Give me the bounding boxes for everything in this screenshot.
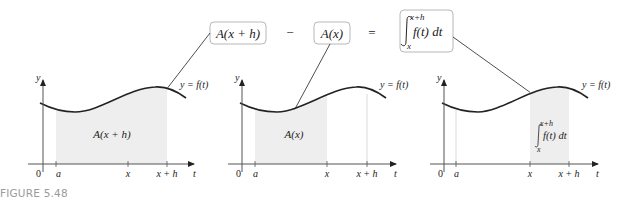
y-axis-label: y [436,72,442,83]
y-axis-label: y [234,72,240,83]
minus-sign: − [286,25,293,40]
integral-upper-limit: x+h [409,12,425,22]
tick-label-x-plus-h: x + h [355,168,377,179]
origin-label: 0 [236,168,241,179]
equals-sign: = [368,25,375,40]
t-axis-label: t [193,168,196,179]
curve-label: y = f(t) [179,79,209,91]
integral-box: x+h x f(t) dt [400,10,453,52]
tick-label-x: x [125,168,131,179]
region-label: A(x) [284,128,304,141]
tick-label-a: a [56,168,61,179]
panel-1: y t 0 a x x + h y = f(t) A(x + h) [28,72,209,179]
connector-line-3 [453,37,538,98]
tick-label-x: x [324,168,330,179]
origin-label: 0 [36,168,41,179]
shaded-region [56,87,167,164]
y-axis-label: y [35,72,41,83]
region-integral-upper: x+h [539,119,553,128]
origin-label: 0 [438,168,443,179]
integral-integrand: f(t) dt [413,24,443,39]
figure-canvas: A(x + h) − A(x) = x+h x f(t) dt y t 0 a [0,0,640,203]
curve-label: y = f(t) [581,79,611,91]
tick-label-x-plus-h: x + h [155,168,177,179]
term-a-x-plus-h-box: A(x + h) [210,22,266,44]
panel-2: y t 0 a x x + h y = f(t) A(x) [228,72,409,179]
tick-label-a: a [253,168,258,179]
figure-caption: FIGURE 5.48 [0,187,68,199]
region-label: A(x + h) [92,128,131,141]
tick-label-x: x [527,168,533,179]
tick-label-x-plus-h: x + h [557,168,579,179]
region-integral-integrand: f(t) dt [543,130,568,142]
term-a-x-box: A(x) [314,22,350,44]
tick-label-a: a [454,168,459,179]
term-a-x: A(x) [320,26,343,41]
integral-lower-limit: x [406,41,411,51]
curve-label: y = f(t) [379,79,409,91]
region-integral-lower: x [536,145,541,154]
t-axis-label: t [596,168,599,179]
panel-3: y t 0 a x x + h y = f(t) x+h x f(t) dt [430,72,611,179]
term-a-x-plus-h: A(x + h) [215,26,260,41]
equation: A(x + h) − A(x) = x+h x f(t) dt [210,10,453,52]
t-axis-label: t [394,168,397,179]
